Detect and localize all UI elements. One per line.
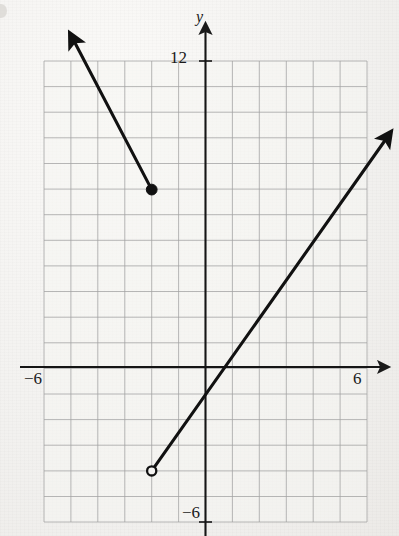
graph-figure: y 12 −6 6 −6	[0, 0, 399, 536]
closed-endpoint-marker	[146, 184, 157, 195]
open-endpoint-marker	[147, 466, 156, 475]
y-min-tick-label: −6	[182, 503, 200, 523]
x-min-tick-label: −6	[24, 369, 42, 389]
coordinate-plane	[0, 0, 399, 536]
y-axis-label: y	[196, 8, 203, 26]
x-max-tick-label: 6	[353, 369, 362, 389]
y-max-tick-label: 12	[170, 48, 187, 68]
